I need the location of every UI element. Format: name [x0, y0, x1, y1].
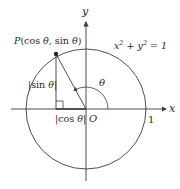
theta-label: θ	[99, 77, 105, 88]
y-axis-label: y	[81, 5, 89, 18]
one-label: 1	[148, 114, 154, 125]
point-p-label: P(cos θ, sin θ)	[13, 35, 81, 46]
right-angle-marker	[56, 101, 63, 109]
sin-length-label: |sin θ|	[28, 79, 57, 91]
equation-label: x2 + y2 = 1	[114, 39, 167, 51]
point-p	[54, 52, 58, 56]
origin-label: O	[89, 113, 97, 124]
theta-arc	[74, 87, 108, 109]
x-axis-label: x	[169, 102, 176, 115]
cos-length-label: |cos θ|	[55, 113, 86, 125]
unit-circle-diagram: y x O 1 x2 + y2 = 1 P(cos θ, sin θ) θ |s…	[0, 0, 180, 189]
